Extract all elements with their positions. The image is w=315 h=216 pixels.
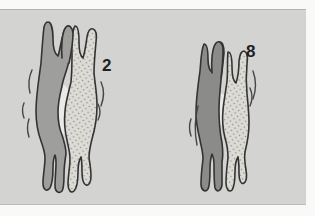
pair-2-label: 2 [102,56,111,75]
pair-8-label: 8 [246,42,255,61]
chromosome-diagram: 2 8 [0,0,315,216]
chromosome-figure: 2 8 [0,0,315,216]
